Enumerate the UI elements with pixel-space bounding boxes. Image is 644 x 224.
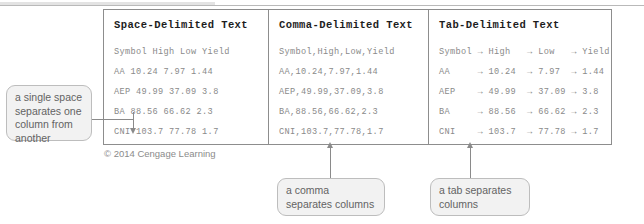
code-line-aa: AA → 10.24 → 7.97 → 1.44 bbox=[439, 62, 611, 82]
delimiter-examples-table: Space-Delimited Text Symbol High Low Yie… bbox=[103, 9, 612, 145]
arrow-up-icon bbox=[327, 142, 333, 148]
delimited-text-figure: Space-Delimited Text Symbol High Low Yie… bbox=[0, 0, 644, 224]
column-title-comma: Comma-Delimited Text bbox=[279, 19, 428, 31]
code-line-header: Symbol High Low Yield bbox=[114, 42, 268, 62]
code-line-aa: AA,10.24,7.97,1.44 bbox=[279, 62, 428, 82]
leader-line-comma-vertical bbox=[330, 148, 331, 178]
leader-line-space-vertical bbox=[133, 112, 134, 129]
callout-space-delimiter: a single space separates one column from… bbox=[6, 85, 92, 141]
page-top-rule bbox=[0, 5, 644, 6]
code-line-header: Symbol,High,Low,Yield bbox=[279, 42, 428, 62]
code-line-aa: AA 10.24 7.97 1.44 bbox=[114, 62, 268, 82]
column-tab-delimited: Tab-Delimited Text Symbol → High → Low →… bbox=[429, 10, 611, 144]
code-line-ba: BA → 88.56 → 66.62 → 2.3 bbox=[439, 102, 611, 122]
code-line-aep: AEP → 49.99 → 37.09 → 3.8 bbox=[439, 82, 611, 102]
code-line-ba: BA 88.56 66.62 2.3 bbox=[114, 102, 268, 122]
callout-comma-delimiter: a comma separates columns bbox=[277, 178, 385, 216]
code-line-header: Symbol → High → Low → Yield bbox=[439, 42, 611, 62]
code-line-aep: AEP,49.99,37.09,3.8 bbox=[279, 82, 428, 102]
column-title-space: Space-Delimited Text bbox=[114, 19, 268, 31]
leader-line-space-horizontal bbox=[92, 119, 134, 120]
code-line-cni: CNI 103.7 77.78 1.7 bbox=[114, 122, 268, 142]
copyright-notice: © 2014 Cengage Learning bbox=[104, 148, 216, 159]
callout-tab-delimiter: a tab separates columns bbox=[430, 178, 530, 216]
code-line-aep: AEP 49.99 37.09 3.8 bbox=[114, 82, 268, 102]
column-title-tab: Tab-Delimited Text bbox=[439, 19, 611, 31]
arrow-up-icon bbox=[467, 142, 473, 148]
code-line-ba: BA,88.56,66.62,2.3 bbox=[279, 102, 428, 122]
code-line-cni: CNI,103.7,77.78,1.7 bbox=[279, 122, 428, 142]
leader-line-tab-vertical bbox=[470, 148, 471, 178]
code-line-cni: CNI → 103.7 → 77.78 → 1.7 bbox=[439, 122, 611, 142]
column-space-delimited: Space-Delimited Text Symbol High Low Yie… bbox=[104, 10, 269, 144]
arrow-down-icon bbox=[130, 128, 136, 134]
column-comma-delimited: Comma-Delimited Text Symbol,High,Low,Yie… bbox=[269, 10, 429, 144]
